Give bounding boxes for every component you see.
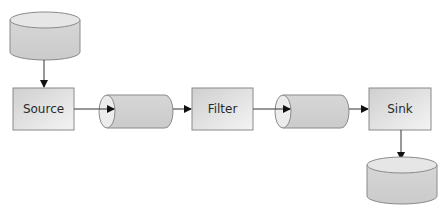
filter-label: Filter <box>208 102 238 116</box>
pipe-2-icon <box>275 95 349 128</box>
sink-box: Sink <box>369 88 431 130</box>
source-database-icon <box>10 12 80 60</box>
source-box: Source <box>13 88 74 130</box>
source-label: Source <box>23 102 64 116</box>
pipe-1-icon <box>99 95 173 128</box>
pipe-filter-diagram: Source Filter Sink <box>0 0 447 215</box>
filter-box: Filter <box>192 88 253 130</box>
sink-label: Sink <box>387 102 413 116</box>
sink-database-icon <box>367 157 437 204</box>
